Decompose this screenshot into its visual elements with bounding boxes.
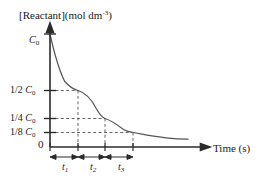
ytick-label-eighth: 1/8 C0 (10, 127, 35, 139)
interval-t1-subscript: 1 (65, 166, 69, 174)
y-axis (47, 23, 54, 147)
ytick-quarter-symbol: C (25, 112, 32, 123)
x-axis-name: Time (213, 142, 236, 154)
ytick-c0-subscript: 0 (36, 39, 40, 47)
guide-lines (50, 91, 133, 148)
ytick-half-subscript: 0 (32, 89, 36, 97)
ytick-eighth-prefix: 1/8 (10, 126, 25, 137)
origin-label: 0 (38, 139, 44, 150)
ytick-label-quarter: 1/4 C0 (10, 113, 35, 125)
ytick-label-half: 1/2 C0 (10, 85, 35, 97)
ytick-half-symbol: C (25, 84, 32, 95)
ytick-eighth-symbol: C (25, 126, 32, 137)
interval-t3-subscript: 3 (121, 166, 125, 174)
y-axis-unit-close: ) (108, 9, 112, 21)
interval-arrows (50, 155, 133, 160)
ytick-eighth-subscript: 0 (32, 131, 36, 139)
ytick-half-prefix: 1/2 (10, 84, 25, 95)
y-axis-species: [Reactant] (19, 9, 65, 21)
ytick-quarter-subscript: 0 (32, 117, 36, 125)
x-axis-title: Time (s) (213, 143, 250, 154)
interval-label-t1: t1 (62, 162, 68, 174)
ytick-label-c0: C0 (29, 35, 39, 47)
interval-label-t2: t2 (90, 162, 96, 174)
ytick-quarter-prefix: 1/4 (10, 112, 25, 123)
chart-figure: [Reactant](mol dm-3) Time (s) C0 1/2 C0 … (0, 0, 265, 181)
y-axis-unit-open: (mol dm (65, 9, 103, 21)
interval-t2-subscript: 2 (93, 166, 97, 174)
decay-curve (50, 34, 188, 139)
ytick-c0-symbol: C (29, 34, 36, 45)
x-axis (50, 144, 210, 151)
interval-label-t3: t3 (118, 162, 124, 174)
x-axis-unit: (s) (239, 142, 251, 154)
y-axis-title: [Reactant](mol dm-3) (19, 10, 112, 21)
